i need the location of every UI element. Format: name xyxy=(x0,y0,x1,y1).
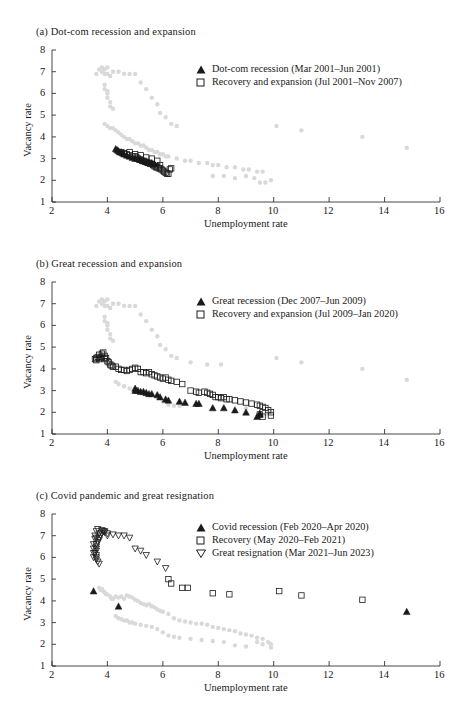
panel-b-xtick-14: 14 xyxy=(379,437,390,448)
panel-c-plot: 8 7 6 5 4 3 2 1 2 4 6 8 10 12 14 16 Vaca… xyxy=(0,506,470,681)
panel-b-legend: Great recession (Dec 2007–Jun 2009) Reco… xyxy=(195,294,398,320)
panel-a-ytick-4: 4 xyxy=(40,131,45,142)
panel-b-xtick-16: 16 xyxy=(434,437,445,448)
panel-b-xtick-8: 8 xyxy=(215,437,220,448)
filled-triangle-up-icon xyxy=(195,64,207,75)
panel-c-ytick-4: 4 xyxy=(40,595,45,606)
beveridge-curve-figure: (a) Dot-com recession and expansion 8 7 … xyxy=(0,0,470,712)
panel-b-ytick-7: 7 xyxy=(40,298,45,309)
panel-a-xtick-12: 12 xyxy=(323,205,334,216)
open-triangle-down-icon xyxy=(195,548,207,559)
panel-b-xtick-12: 12 xyxy=(323,437,334,448)
legend-label: Recovery and expansion (Jul 2001–Nov 200… xyxy=(212,76,402,87)
panel-c-ytick-2: 2 xyxy=(40,638,45,649)
legend-label: Covid recession (Feb 2020–Apr 2020) xyxy=(212,521,369,532)
legend-label: Great recession (Dec 2007–Jun 2009) xyxy=(212,295,366,306)
panel-b-ylabel: Vacancy rate xyxy=(22,335,33,389)
panel-a-xtick-14: 14 xyxy=(379,205,390,216)
panel-a-ytick-7: 7 xyxy=(40,66,45,77)
panel-a-xtick-4: 4 xyxy=(104,205,109,216)
panel-b-ytick-5: 5 xyxy=(40,341,45,352)
legend-item-recovery: Recovery (May 2020–Feb 2021) xyxy=(195,533,374,546)
panel-c-xtick-16: 16 xyxy=(434,669,445,680)
panel-a-xtick-10: 10 xyxy=(268,205,279,216)
panel-a-ytick-8: 8 xyxy=(40,44,45,55)
panel-a-xlabel: Unemployment rate xyxy=(204,218,288,229)
panel-a-ytick-6: 6 xyxy=(40,87,45,98)
panel-b-xtick-2: 2 xyxy=(49,437,54,448)
legend-item-recovery-expansion: Recovery and expansion (Jul 2001–Nov 200… xyxy=(195,75,402,88)
panel-a-ytick-1: 1 xyxy=(40,196,45,207)
panel-c-ytick-6: 6 xyxy=(40,551,45,562)
panel-a-legend: Dot-com recession (Mar 2001–Jun 2001) Re… xyxy=(195,62,402,88)
panel-c-xtick-14: 14 xyxy=(379,669,390,680)
panel-b-ytick-8: 8 xyxy=(40,276,45,287)
panel-a-ytick-3: 3 xyxy=(40,153,45,164)
panel-a-xtick-8: 8 xyxy=(215,205,220,216)
filled-triangle-up-icon xyxy=(195,296,207,307)
legend-item-covid-recession: Covid recession (Feb 2020–Apr 2020) xyxy=(195,520,374,533)
panel-b-ytick-1: 1 xyxy=(40,428,45,439)
panel-c-ytick-7: 7 xyxy=(40,530,45,541)
legend-label: Dot-com recession (Mar 2001–Jun 2001) xyxy=(212,63,380,74)
legend-label: Recovery and expansion (Jul 2009–Jan 202… xyxy=(212,308,398,319)
panel-c-xtick-2: 2 xyxy=(49,669,54,680)
panel-b-ytick-4: 4 xyxy=(40,363,45,374)
panel-a-ylabel: Vacancy rate xyxy=(22,103,33,157)
panel-c-title: (c) Covid pandemic and great resignation xyxy=(36,490,214,501)
panel-c-xtick-10: 10 xyxy=(268,669,279,680)
panel-a-xtick-2: 2 xyxy=(49,205,54,216)
open-square-icon xyxy=(195,535,207,546)
panel-b-ytick-6: 6 xyxy=(40,319,45,330)
panel-c-xlabel: Unemployment rate xyxy=(204,682,288,693)
legend-item-great-recession: Great recession (Dec 2007–Jun 2009) xyxy=(195,294,398,307)
panel-c-xtick-8: 8 xyxy=(215,669,220,680)
panel-a-xtick-16: 16 xyxy=(434,205,445,216)
panel-b-ytick-3: 3 xyxy=(40,385,45,396)
panel-a-plot: 8 7 6 5 4 3 2 1 2 4 6 8 10 12 14 16 Vaca… xyxy=(0,42,470,217)
panel-a-ytick-5: 5 xyxy=(40,109,45,120)
panel-a-ytick-2: 2 xyxy=(40,174,45,185)
panel-c-ytick-3: 3 xyxy=(40,617,45,628)
open-square-icon xyxy=(195,309,207,320)
legend-item-recovery-expansion: Recovery and expansion (Jul 2009–Jan 202… xyxy=(195,307,398,320)
scatter-series xyxy=(166,576,365,602)
legend-label: Great resignation (Mar 2021–Jun 2023) xyxy=(212,547,374,558)
panel-b-ytick-2: 2 xyxy=(40,406,45,417)
panel-b-title: (b) Great recession and expansion xyxy=(36,258,182,269)
scatter-series xyxy=(119,149,174,176)
panel-c-xtick-4: 4 xyxy=(104,669,109,680)
panel-c-legend: Covid recession (Feb 2020–Apr 2020) Reco… xyxy=(195,520,374,560)
panel-c-ytick-5: 5 xyxy=(40,573,45,584)
legend-item-great-resignation: Great resignation (Mar 2021–Jun 2023) xyxy=(195,546,374,559)
open-square-icon xyxy=(195,77,207,88)
panel-b-xtick-6: 6 xyxy=(160,437,165,448)
panel-c-ytick-1: 1 xyxy=(40,660,45,671)
panel-b-xtick-4: 4 xyxy=(104,437,109,448)
panel-c-ytick-8: 8 xyxy=(40,508,45,519)
scatter-series xyxy=(90,526,168,571)
legend-item-dotcom-recession: Dot-com recession (Mar 2001–Jun 2001) xyxy=(195,62,402,75)
panel-c-ylabel: Vacancy rate xyxy=(22,567,33,621)
scatter-series xyxy=(97,586,273,650)
legend-label: Recovery (May 2020–Feb 2021) xyxy=(212,534,345,545)
filled-triangle-up-icon xyxy=(195,522,207,533)
panel-b-xlabel: Unemployment rate xyxy=(204,450,288,461)
panel-b-xtick-10: 10 xyxy=(268,437,279,448)
panel-c-xtick-12: 12 xyxy=(323,669,334,680)
panel-c-xtick-6: 6 xyxy=(160,669,165,680)
panel-a-xtick-6: 6 xyxy=(160,205,165,216)
panel-b-plot: 8 7 6 5 4 3 2 1 2 4 6 8 10 12 14 16 Vaca… xyxy=(0,274,470,449)
panel-a-title: (a) Dot-com recession and expansion xyxy=(36,26,196,37)
